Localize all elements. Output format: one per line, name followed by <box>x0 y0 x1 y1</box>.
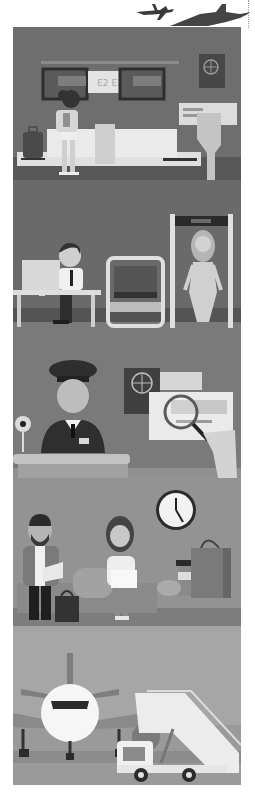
panel-boarding <box>13 633 241 785</box>
panel-passport-control <box>13 328 241 478</box>
cut-line <box>248 0 251 28</box>
airplane-icon <box>130 0 250 28</box>
panel-check-in: E2 E3 <box>13 27 241 180</box>
airplane-shadow-icon <box>170 4 250 26</box>
header-airplanes <box>130 0 250 28</box>
panel-security <box>13 180 241 328</box>
panel-waiting-lounge <box>13 478 241 633</box>
wall-clock-icon <box>156 490 196 530</box>
